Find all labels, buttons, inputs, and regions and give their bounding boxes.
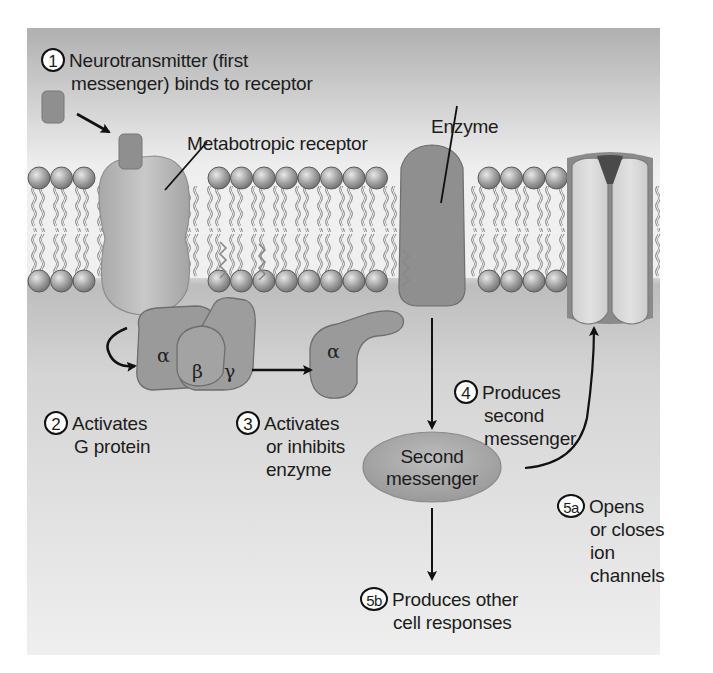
step-2-label: 2Activates G protein [44, 412, 150, 458]
neurotransmitter-bound [119, 134, 142, 169]
g-alpha-label: α [157, 344, 170, 366]
neurotransmitter-free [42, 91, 64, 123]
step-5a-badge: 5a [557, 494, 585, 518]
receptor-label: Metabotropic receptor [187, 132, 368, 155]
step-5a-label: 5aOpens or closes ion channels [557, 495, 664, 587]
step-5b-badge: 5b [360, 587, 388, 611]
step-1-badge: 1 [41, 48, 65, 72]
g-gamma-label: γ [224, 360, 235, 382]
step-4-label: 4Produces second messenger [454, 381, 576, 450]
g-alpha-active-label: α [327, 340, 340, 362]
enzyme-label: Enzyme [431, 115, 498, 138]
step-2-badge: 2 [44, 411, 68, 435]
step-1-label: 1Neurotransmitter (first messenger) bind… [41, 49, 313, 95]
step-4-badge: 4 [454, 380, 478, 404]
step-3-badge: 3 [236, 411, 260, 435]
second-messenger-label: Second messenger [363, 446, 501, 490]
g-beta-label: β [192, 360, 203, 382]
step-5b-label: 5bProduces other cell responses [360, 588, 518, 634]
diagram-panel: α β γ α 1Neurotransmitter (first messeng… [27, 28, 660, 655]
step-3-label: 3Activates or inhibits enzyme [236, 412, 345, 481]
ion-channel [567, 152, 653, 324]
